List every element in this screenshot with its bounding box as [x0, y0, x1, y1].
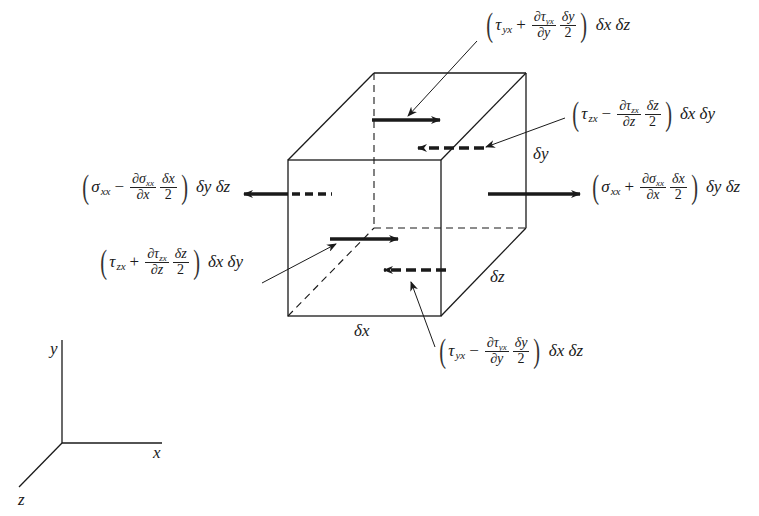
paren-left: ( [486, 8, 493, 42]
z-axis [19, 443, 62, 487]
dimension-label-dy: δy [533, 145, 548, 162]
cube-bottom-right-edge [441, 228, 526, 316]
axis-label-y: y [50, 340, 58, 357]
dimension-label-dz: δz [490, 268, 505, 285]
expr-tau-zx-minus: ( τzx − ∂τzx∂z δz2 ) δx δy [570, 97, 715, 131]
cube-top-left-edge [288, 73, 374, 160]
axis-label-z: z [18, 491, 25, 508]
axis-label-x: x [153, 444, 161, 461]
expr-tau-yx-minus: ( τyx − ∂τyx∂y δy2 ) δx δz [437, 334, 583, 368]
expr-tau-zx-plus: ( τzx + ∂τzx∂z δz2 ) δx δy [98, 245, 243, 279]
expr-tau-yx-plus: ( τyx + ∂τyx∂y δy2 ) δx δz [484, 8, 630, 42]
expr-sigma-xx-minus: ( σxx − ∂σxx∂x δx2 ) δy δz [80, 170, 230, 204]
coordinate-axes [19, 340, 162, 487]
derivative-fraction: ∂τyx∂y [532, 10, 556, 40]
force-arrows [244, 120, 580, 270]
half-fraction: δy2 [560, 10, 577, 40]
expr-sigma-xx-plus: ( σxx + ∂σxx∂x δx2 ) δy δz [590, 170, 740, 204]
paren-right: ) [581, 8, 588, 42]
dimension-label-dx: δx [354, 322, 369, 339]
